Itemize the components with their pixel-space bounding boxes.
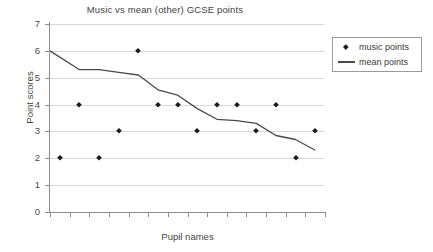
chart-title: Music vs mean (other) GCSE points — [0, 4, 330, 15]
x-axis-tick — [188, 212, 189, 217]
y-axis-tick — [45, 158, 50, 159]
x-axis-tick — [246, 212, 247, 217]
y-axis-tick-label: 0 — [14, 206, 40, 217]
x-axis-tick — [148, 212, 149, 217]
y-axis-tick-label: 5 — [14, 72, 40, 83]
chart-legend: music points mean points — [332, 37, 422, 72]
x-axis-title: Pupil names — [50, 231, 325, 242]
mean-points-line — [50, 24, 325, 212]
y-axis-tick-label: 7 — [14, 18, 40, 29]
x-axis-tick — [129, 212, 130, 217]
y-axis-tick-label: 1 — [14, 179, 40, 190]
y-axis-tick — [45, 51, 50, 52]
y-axis-tick — [45, 24, 50, 25]
legend-label-mean-points: mean points — [359, 57, 408, 67]
x-axis-tick — [305, 212, 306, 217]
y-axis-tick — [45, 78, 50, 79]
legend-item-mean-points: mean points — [333, 54, 421, 70]
y-axis-tick — [45, 131, 50, 132]
y-axis-tick-label: 6 — [14, 45, 40, 56]
y-axis-tick — [45, 185, 50, 186]
x-axis-tick — [325, 212, 326, 217]
x-axis-tick — [286, 212, 287, 217]
x-axis-tick — [50, 212, 51, 217]
line-segment-icon — [333, 61, 359, 62]
y-axis-tick-label: 3 — [14, 125, 40, 136]
chart-container: Music vs mean (other) GCSE points Point … — [0, 0, 433, 252]
x-axis-tick — [227, 212, 228, 217]
y-axis-tick-label: 2 — [14, 152, 40, 163]
x-axis-tick — [89, 212, 90, 217]
x-axis-tick — [207, 212, 208, 217]
x-axis-tick — [168, 212, 169, 217]
y-axis-tick — [45, 105, 50, 106]
x-axis-tick — [266, 212, 267, 217]
legend-label-music-points: music points — [359, 42, 409, 52]
legend-item-music-points: music points — [333, 39, 421, 55]
x-axis-tick — [109, 212, 110, 217]
diamond-marker-icon — [333, 45, 359, 49]
y-axis-tick-label: 4 — [14, 99, 40, 110]
x-axis-tick — [70, 212, 71, 217]
